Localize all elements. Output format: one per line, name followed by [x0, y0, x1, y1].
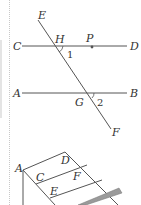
label-h: H — [54, 33, 65, 46]
box-label-d: D — [60, 154, 70, 167]
label-p: P — [85, 32, 94, 45]
box-label-a: A — [14, 162, 23, 175]
label-c: C — [13, 40, 22, 53]
box-label-c: C — [36, 171, 45, 184]
transversal-ef — [38, 20, 111, 129]
label-angle-1: 1 — [67, 49, 73, 60]
label-e: E — [37, 9, 46, 22]
angle-2-arc — [92, 93, 94, 98]
box-label-f: F — [72, 170, 81, 183]
label-b: B — [129, 87, 138, 100]
label-g: G — [75, 96, 84, 109]
label-f: F — [111, 126, 120, 139]
geometry-figures: E C H P D 1 A G 2 B F A C D E F — [0, 0, 141, 205]
figure-box: A C D E F — [14, 152, 122, 205]
angle-1-arc — [59, 46, 63, 52]
label-angle-2: 2 — [97, 97, 103, 108]
box-label-e: E — [49, 185, 58, 198]
label-a: A — [12, 87, 21, 100]
figure-parallel-lines: E C H P D 1 A G 2 B F — [12, 9, 139, 139]
label-d: D — [129, 40, 139, 53]
point-p — [91, 46, 94, 49]
